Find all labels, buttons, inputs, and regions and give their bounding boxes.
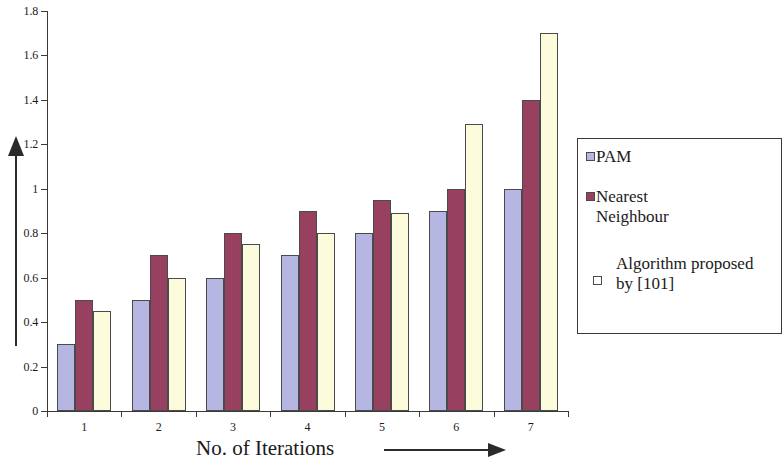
x-axis-tick <box>121 411 122 417</box>
x-axis-tick-label: 3 <box>213 420 253 434</box>
y-axis-tick-label: 1 <box>0 183 38 195</box>
bar <box>504 189 522 411</box>
legend-item-algorithm-proposed: Algorithm proposed by [101] <box>586 254 753 294</box>
pam-swatch-icon <box>586 152 595 161</box>
bar <box>465 124 483 411</box>
x-axis-arrow-shaft <box>384 449 492 451</box>
bar <box>57 344 75 411</box>
bar <box>206 278 224 411</box>
bar <box>132 300 150 411</box>
y-axis-tick-label: 1.4 <box>0 94 38 106</box>
y-axis-tick-label: 0 <box>0 405 38 417</box>
x-axis-tick-label: 4 <box>288 420 328 434</box>
bar <box>75 300 93 411</box>
x-axis-tick <box>345 411 346 417</box>
bars-layer <box>47 11 568 411</box>
x-axis-tick <box>196 411 197 417</box>
nearest-neighbour-swatch-icon <box>586 192 595 201</box>
bar <box>242 244 260 411</box>
x-axis-tick-label: 7 <box>511 420 551 434</box>
legend-item-nearest-neighbour: Nearest Neighbour <box>586 187 669 227</box>
bar <box>317 233 335 411</box>
bar <box>150 255 168 411</box>
y-axis-tick-label: 0.6 <box>0 272 38 284</box>
bar <box>540 33 558 411</box>
x-axis-title: No. of Iterations <box>196 436 334 460</box>
y-axis-arrow-shaft <box>15 152 17 346</box>
legend-item-label: PAM <box>596 147 631 167</box>
legend: PAM Nearest Neighbour Algorithm proposed… <box>577 138 782 334</box>
bar <box>168 278 186 411</box>
bar <box>373 200 391 411</box>
y-axis-tick-label: 0.2 <box>0 361 38 373</box>
x-axis-tick-label: 6 <box>436 420 476 434</box>
bar <box>299 211 317 411</box>
bar <box>429 211 447 411</box>
legend-item-label: Algorithm proposed by [101] <box>616 254 753 294</box>
legend-item-label: Nearest Neighbour <box>596 187 669 227</box>
bar <box>391 213 409 411</box>
y-axis-tick-label: 1.8 <box>0 5 38 17</box>
x-axis-tick <box>47 411 48 417</box>
legend-item-pam: PAM <box>586 147 631 167</box>
x-axis-tick-label: 1 <box>64 420 104 434</box>
bar <box>224 233 242 411</box>
x-axis-tick <box>419 411 420 417</box>
x-axis-line <box>47 411 569 412</box>
algorithm-proposed-swatch-icon <box>593 276 602 285</box>
x-axis-tick-label: 5 <box>362 420 402 434</box>
x-axis-tick <box>494 411 495 417</box>
bar <box>281 255 299 411</box>
x-axis-tick <box>270 411 271 417</box>
bar <box>447 189 465 411</box>
y-axis-tick-label: 0.8 <box>0 227 38 239</box>
x-axis-tick-label: 2 <box>139 420 179 434</box>
bar <box>522 100 540 411</box>
y-axis-tick-label: 1.6 <box>0 49 38 61</box>
bar <box>355 233 373 411</box>
bar <box>93 311 111 411</box>
y-axis-tick-label: 0.4 <box>0 316 38 328</box>
x-axis-right-arrow-icon <box>488 443 506 457</box>
x-axis-tick <box>568 411 569 417</box>
